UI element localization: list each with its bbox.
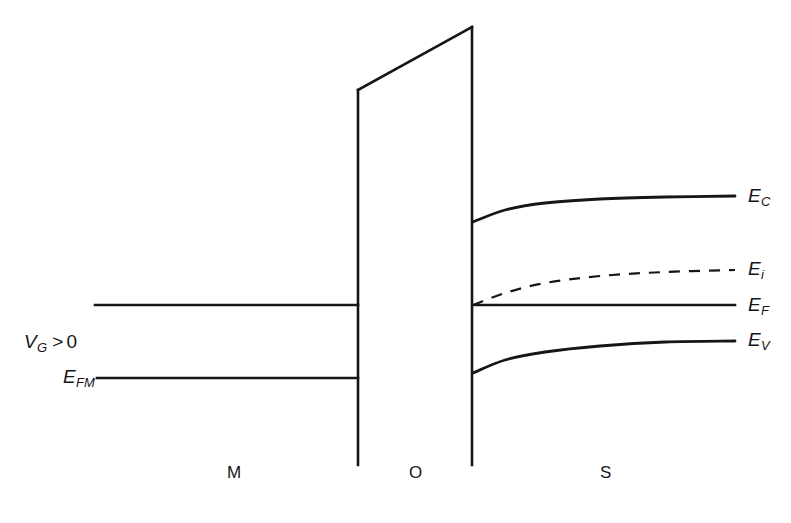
gate-bias-label: VG>0 xyxy=(24,331,77,353)
intrinsic-level-label: Ei xyxy=(748,258,764,280)
region-label-oxide: O xyxy=(409,463,422,483)
metal-region-lines xyxy=(95,305,358,378)
semiconductor-bands xyxy=(473,196,735,373)
conduction-band-subscript: C xyxy=(761,194,771,209)
gate-bias-operator: > xyxy=(47,331,66,352)
conduction-band-label: EC xyxy=(748,185,771,207)
gate-bias-subscript: G xyxy=(37,340,47,355)
intrinsic-level-curve xyxy=(473,270,735,305)
intrinsic-level-symbol: E xyxy=(748,258,761,279)
band-diagram-figure xyxy=(0,0,791,523)
region-label-metal: M xyxy=(227,463,241,483)
valence-band-subscript: V xyxy=(761,338,770,353)
valence-band-curve xyxy=(473,341,735,373)
valence-band-label: EV xyxy=(748,329,770,351)
fermi-level-symbol: E xyxy=(748,294,761,315)
conduction-band-symbol: E xyxy=(748,185,761,206)
region-label-semiconductor: S xyxy=(600,463,611,483)
intrinsic-level-subscript: i xyxy=(761,267,764,282)
metal-fermi-subscript: FM xyxy=(76,375,95,390)
oxide-barrier xyxy=(358,27,472,465)
fermi-level-subscript: F xyxy=(761,303,769,318)
conduction-band-curve xyxy=(473,196,735,222)
metal-fermi-symbol: E xyxy=(63,366,76,387)
fermi-level-label: EF xyxy=(748,294,769,316)
valence-band-symbol: E xyxy=(748,329,761,350)
oxide-barrier-top-line xyxy=(358,27,472,90)
gate-bias-value: 0 xyxy=(67,331,78,352)
gate-bias-symbol: V xyxy=(24,331,37,352)
metal-fermi-label: EFM xyxy=(63,366,95,388)
